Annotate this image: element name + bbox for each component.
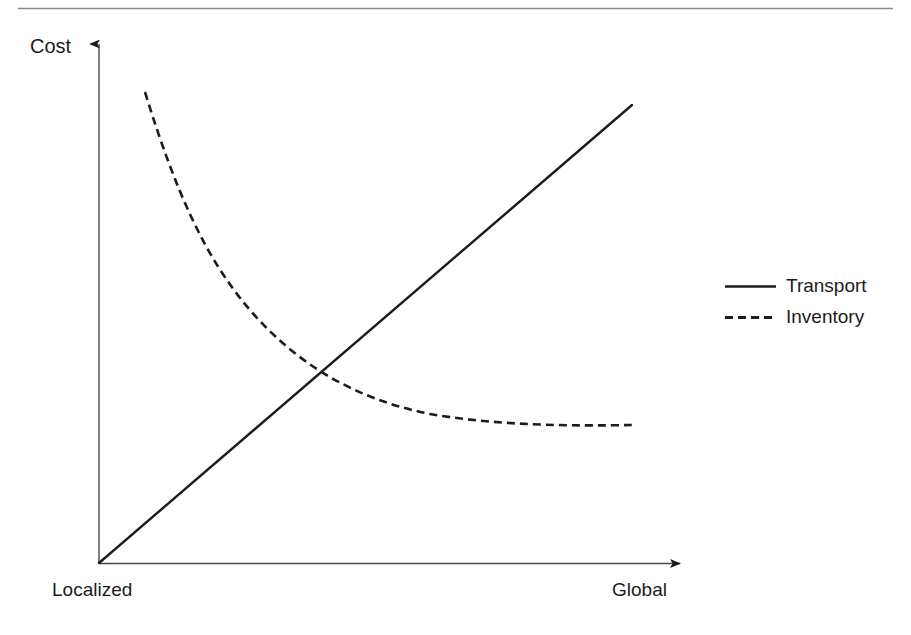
chart-canvas [0, 0, 911, 635]
figure-root: Cost Localized Global Transport Inventor… [0, 0, 911, 635]
x-axis-end-label: Global [612, 580, 667, 599]
series-line-transport [99, 105, 632, 563]
y-axis-title: Cost [30, 36, 71, 56]
legend-item-transport: Transport [786, 276, 867, 295]
legend-item-inventory: Inventory [786, 307, 864, 326]
series-line-inventory [145, 92, 632, 425]
x-axis-start-label: Localized [52, 580, 132, 599]
